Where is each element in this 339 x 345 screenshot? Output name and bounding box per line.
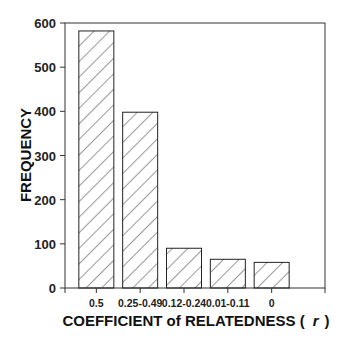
x-tick-label: 0.5 <box>89 297 104 309</box>
x-axis-title-main: COEFFICIENT of RELATEDNESS ( <box>62 312 304 329</box>
bar-0.25-0.49 <box>123 112 158 288</box>
bars <box>79 31 289 288</box>
y-axis-title: FREQUENCY <box>17 108 34 202</box>
x-tick-label: 0 <box>269 297 275 309</box>
y-tick-label: 300 <box>34 149 56 164</box>
y-tick-label: 600 <box>34 16 56 31</box>
x-tick-label: 0.01-0.11 <box>206 297 250 309</box>
x-axis-title: COEFFICIENT of RELATEDNESS (r) <box>62 312 329 329</box>
y-axis: 0100200300400500600 <box>34 16 65 296</box>
x-tick-label: 0.25-0.49 <box>118 297 163 309</box>
bar-0.5 <box>79 31 114 288</box>
y-tick-label: 100 <box>34 237 56 252</box>
x-axis: 0.50.25-0.490.12-0.240.01-0.110 <box>65 288 325 309</box>
y-tick-label: 500 <box>34 60 56 75</box>
y-tick-label: 200 <box>34 193 56 208</box>
x-axis-title-symbol: r <box>313 312 320 329</box>
y-tick-label: 400 <box>34 104 56 119</box>
x-axis-title-close: ) <box>325 312 330 329</box>
y-tick-label: 0 <box>49 281 56 296</box>
bar-0.12-0.24 <box>167 248 202 288</box>
bar-0 <box>254 262 289 288</box>
bar-0.01-0.11 <box>210 259 245 288</box>
x-tick-label: 0.12-0.24 <box>162 297 207 309</box>
bar-chart: 0100200300400500600 0.50.25-0.490.12-0.2… <box>0 0 339 345</box>
